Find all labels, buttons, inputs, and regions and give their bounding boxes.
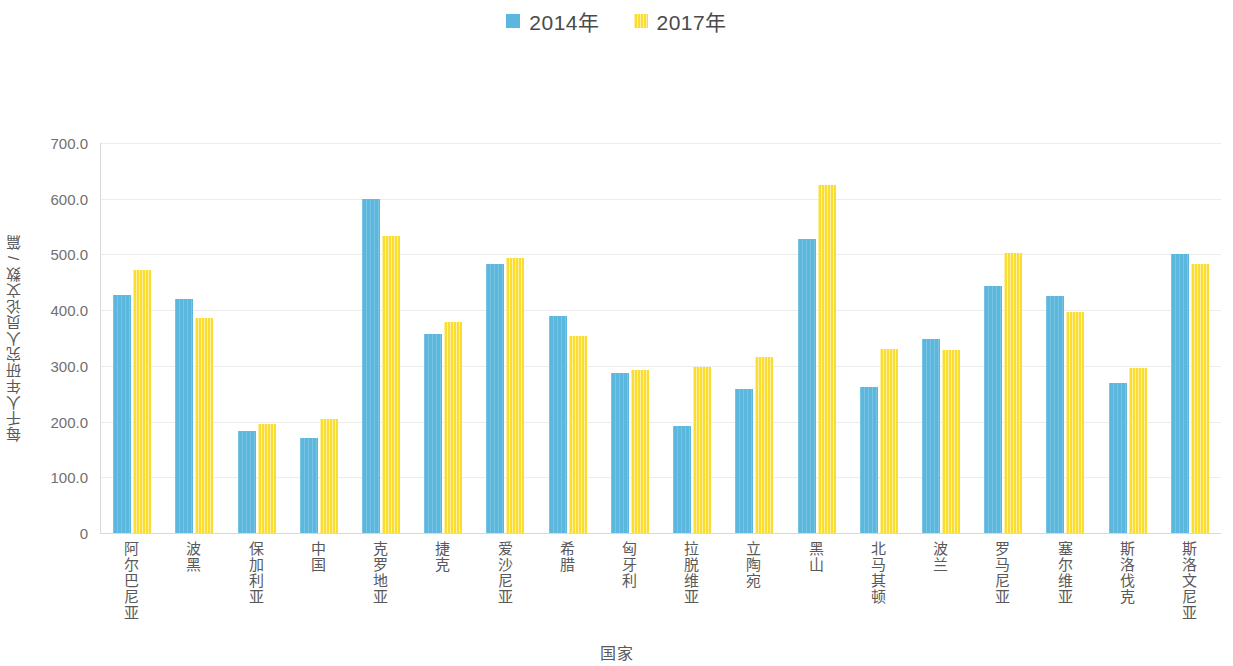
bar-group [785,143,847,533]
y-axis-title-text: 每千人年研究人员论文数 / 篇 [3,234,24,442]
bar-group [474,143,536,533]
bar-group [537,143,599,533]
bar-2014年[interactable] [984,286,1002,533]
x-axis-tick-label-text: 捷克 [435,541,450,573]
x-axis-tick-label-text: 波兰 [932,541,947,573]
bar-2014年[interactable] [611,373,629,533]
bar-group [1159,143,1221,533]
chart-legend: 2014年 2017年 [0,6,1233,36]
legend-entry-2017[interactable]: 2017年 [634,6,727,36]
y-axis-tick-label: 500.0 [50,246,88,263]
bar-2017年[interactable] [693,367,711,533]
bar-2014年[interactable] [362,199,380,533]
bar-group [412,143,474,533]
y-axis-tick-labels: 0100.0200.0300.0400.0500.0600.0700.0 [24,0,94,666]
x-axis-tick-label: 斯洛伐克 [1096,541,1158,641]
bar-2014年[interactable] [175,299,193,533]
bar-2017年[interactable] [382,236,400,533]
bar-2014年[interactable] [735,389,753,533]
bar-2014年[interactable] [113,295,131,533]
bar-2014年[interactable] [486,264,504,533]
x-axis-tick-label-text: 爱沙尼亚 [497,541,512,605]
bar-2014年[interactable] [673,426,691,533]
x-axis-tick-label-text: 斯洛伐克 [1119,541,1134,605]
x-axis-tick-label: 北马其顿 [847,541,909,641]
bar-chart: 2014年 2017年 每千人年研究人员论文数 / 篇 0100.0200.03… [0,0,1233,666]
x-axis-tick-label: 中国 [287,541,349,641]
x-axis-tick-label: 克罗地亚 [349,541,411,641]
x-axis-tick-label-text: 斯洛文尼亚 [1181,541,1196,621]
bar-group [661,143,723,533]
bar-2017年[interactable] [1191,264,1209,533]
bar-group [1034,143,1096,533]
bar-2017年[interactable] [320,419,338,533]
bar-2014年[interactable] [238,431,256,534]
bar-2014年[interactable] [549,316,567,533]
x-axis-tick-label-text: 北马其顿 [870,541,885,605]
bar-2014年[interactable] [860,387,878,533]
bar-group [101,143,163,533]
bar-2017年[interactable] [506,258,524,533]
bar-groups [101,143,1221,533]
x-axis-tick-labels: 阿尔巴尼亚波黑保加利亚中国克罗地亚捷克爱沙尼亚希腊匈牙利拉脱维亚立陶宛黑山北马其… [100,541,1220,641]
y-axis-tick-label: 200.0 [50,413,88,430]
bar-2014年[interactable] [424,334,442,533]
x-axis-tick-label-text: 中国 [310,541,325,573]
bar-2017年[interactable] [1004,253,1022,533]
bar-2017年[interactable] [444,322,462,533]
x-axis-tick-label: 罗马尼亚 [971,541,1033,641]
bar-group [599,143,661,533]
y-axis-tick-label: 400.0 [50,302,88,319]
y-axis-tick-label: 0 [80,525,88,542]
x-axis-tick-label: 拉脱维亚 [660,541,722,641]
legend-swatch-icon-2014 [506,14,520,28]
bar-group [163,143,225,533]
bar-2017年[interactable] [133,270,151,533]
y-axis-tick-label: 700.0 [50,135,88,152]
bar-group [723,143,785,533]
x-axis-title: 国家 [0,640,1233,664]
x-axis-tick-label-text: 拉脱维亚 [683,541,698,605]
bar-2014年[interactable] [798,239,816,533]
x-axis-tick-label-text: 匈牙利 [621,541,636,589]
x-axis-tick-label-text: 阿尔巴尼亚 [123,541,138,621]
bar-2017年[interactable] [631,370,649,533]
x-axis-tick-label: 阿尔巴尼亚 [100,541,162,641]
bar-group [848,143,910,533]
x-axis-tick-label-text: 塞尔维亚 [1057,541,1072,605]
x-axis-tick-label: 希腊 [536,541,598,641]
y-axis-title: 每千人年研究人员论文数 / 篇 [2,143,24,533]
plot-area [100,143,1221,534]
bar-2017年[interactable] [258,424,276,533]
bar-2017年[interactable] [1129,368,1147,533]
bar-2017年[interactable] [195,318,213,533]
bar-group [288,143,350,533]
bar-2017年[interactable] [569,336,587,533]
x-axis-tick-label-text: 保加利亚 [248,541,263,605]
bar-2014年[interactable] [922,339,940,533]
x-axis-tick-label: 立陶宛 [722,541,784,641]
y-axis-tick-label: 600.0 [50,190,88,207]
bar-2014年[interactable] [300,438,318,533]
bar-2017年[interactable] [942,350,960,533]
x-axis-tick-label-text: 立陶宛 [746,541,761,589]
bar-2017年[interactable] [880,349,898,533]
legend-entry-2014[interactable]: 2014年 [506,6,599,36]
bar-group [1097,143,1159,533]
bar-group [350,143,412,533]
x-axis-tick-label-text: 黑山 [808,541,823,573]
bar-2014年[interactable] [1046,296,1064,533]
bar-2014年[interactable] [1171,254,1189,533]
x-axis-tick-label-text: 希腊 [559,541,574,573]
x-axis-tick-label: 斯洛文尼亚 [1158,541,1220,641]
bar-2017年[interactable] [1066,312,1084,533]
bar-group [972,143,1034,533]
bar-2017年[interactable] [818,185,836,533]
legend-label-2014: 2014年 [529,6,599,36]
y-axis-tick-label: 100.0 [50,469,88,486]
x-axis-tick-label: 塞尔维亚 [1033,541,1095,641]
bar-2014年[interactable] [1109,383,1127,533]
bar-group [910,143,972,533]
bar-2017年[interactable] [755,357,773,533]
x-axis-tick-label-text: 克罗地亚 [372,541,387,605]
